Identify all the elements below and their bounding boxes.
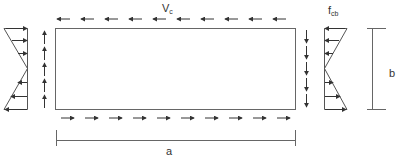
shear-panel (56, 29, 296, 110)
left-stress-diagram (4, 29, 28, 110)
width-dimension (57, 130, 296, 146)
bending-stress-label: fcb (328, 5, 338, 17)
shear-panel-diagram (0, 0, 396, 163)
right-stress-diagram (325, 29, 348, 110)
width-dimension-label: a (166, 146, 172, 157)
height-dimension-label: b (389, 68, 395, 79)
height-dimension (367, 29, 386, 110)
shear-label: Vc (162, 3, 173, 15)
